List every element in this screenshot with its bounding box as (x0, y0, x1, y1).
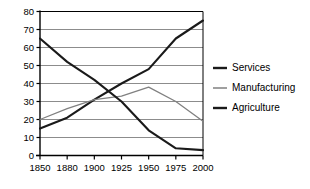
x-axis-tick-label: 1900 (84, 162, 105, 173)
legend-label-manufacturing: Manufacturing (232, 82, 295, 93)
series-line-manufacturing (40, 87, 203, 121)
x-axis-tick-label: 1950 (138, 162, 159, 173)
y-axis-tick-label: 40 (23, 78, 34, 89)
y-axis-tick-label: 10 (23, 132, 34, 143)
x-axis-tick-labels: 1850188019001925195019752000 (29, 162, 213, 173)
y-axis-tick-label: 60 (23, 42, 34, 53)
x-axis-tick-label: 1850 (29, 162, 50, 173)
y-axis-tick-label: 20 (23, 114, 34, 125)
y-axis-tick-label: 0 (29, 150, 34, 161)
x-axis-tick-label: 1925 (111, 162, 132, 173)
chart-canvas: 01020304050607080 1850188019001925195019… (0, 0, 310, 189)
y-axis-tick-label: 80 (23, 6, 34, 17)
y-axis-tick-label: 30 (23, 96, 34, 107)
y-axis-tick-label: 50 (23, 60, 34, 71)
chart-legend: ServicesManufacturingAgriculture (213, 62, 295, 113)
x-axis-tick-label: 2000 (192, 162, 213, 173)
x-axis-tick-label: 1880 (57, 162, 78, 173)
x-axis-tick-label: 1975 (165, 162, 186, 173)
y-axis-tick-label: 70 (23, 24, 34, 35)
series-line-agriculture (40, 39, 203, 151)
legend-label-agriculture: Agriculture (232, 102, 280, 113)
series-line-services (40, 21, 203, 129)
y-axis-tick-labels: 01020304050607080 (23, 6, 34, 161)
legend-label-services: Services (232, 62, 270, 73)
data-series-lines (40, 21, 203, 151)
line-chart: 01020304050607080 1850188019001925195019… (0, 0, 310, 189)
